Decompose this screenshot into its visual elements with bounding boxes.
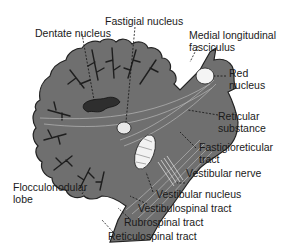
- label-fastigioreticular-line2: tract: [199, 153, 219, 165]
- cerebellum-diagram: Dentate nucleus Fastigial nucleus Medial…: [0, 0, 290, 249]
- label-reticulospinal-tract: Reticulospinal tract: [108, 230, 197, 242]
- label-fastigial-nucleus: Fastigial nucleus: [105, 15, 183, 27]
- label-rubrospinal-tract: Rubrospinal tract: [124, 216, 203, 228]
- label-reticular-substance-line1: Reticular: [218, 110, 259, 122]
- label-reticular-substance-line2: substance: [218, 122, 266, 134]
- label-flocculonodular-line1: Flocculonodular: [13, 181, 87, 193]
- label-vestibular-nucleus: Vestibular nucleus: [156, 188, 241, 200]
- label-mlf-line1: Medial longitudinal: [189, 29, 276, 41]
- label-red-nucleus-line1: Red: [229, 67, 248, 79]
- fastigial-nucleus-shape: [117, 122, 131, 134]
- red-nucleus-shape: [196, 68, 214, 84]
- label-mlf-line2: fasciculus: [189, 41, 235, 53]
- label-vestibular-nerve: Vestibular nerve: [186, 167, 261, 179]
- label-fastigioreticular-line1: Fastigioreticular: [199, 141, 273, 153]
- label-dentate-nucleus: Dentate nucleus: [35, 27, 111, 39]
- label-flocculonodular-line2: lobe: [13, 193, 33, 205]
- label-vestibulospinal-tract: Vestibulospinal tract: [138, 202, 231, 214]
- label-red-nucleus-line2: nucleus: [229, 79, 265, 91]
